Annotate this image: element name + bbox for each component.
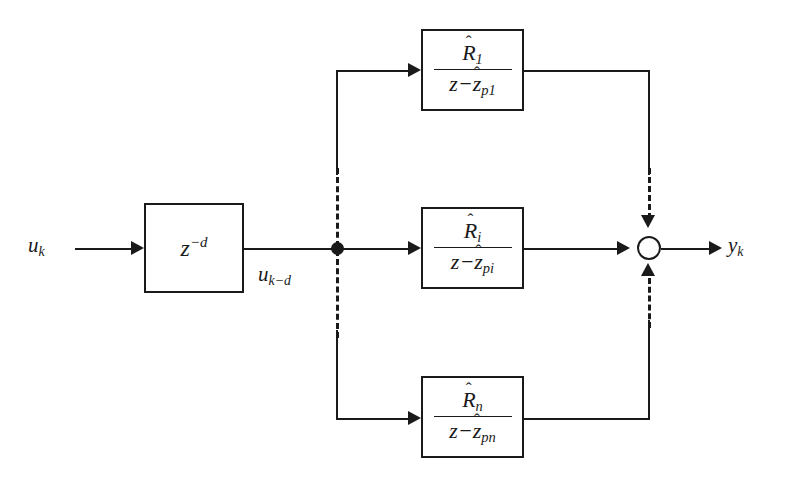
wire-branch-1-to-sum-bus bbox=[524, 70, 650, 72]
wire-delay-to-branchpoint bbox=[244, 248, 344, 250]
arrowhead-into-delay-block bbox=[131, 241, 144, 255]
arrowhead-into-branch-i-block bbox=[408, 241, 421, 255]
output-signal-label: yk bbox=[728, 235, 743, 259]
bus-left-upper-solid bbox=[336, 70, 338, 175]
wire-to-branch-n bbox=[336, 418, 414, 420]
arrowhead-output bbox=[709, 241, 722, 255]
arrowhead-into-sum-bottom bbox=[641, 263, 655, 276]
branch-i-denominator: z−ˆzpi bbox=[445, 248, 500, 276]
delay-block[interactable]: z−d bbox=[144, 203, 244, 293]
block-diagram-canvas: uk z−d uk−d ˆR1 z−ˆzp1 bbox=[0, 0, 786, 478]
arrowhead-into-sum-left bbox=[617, 241, 630, 255]
arrowhead-into-branch-n-block bbox=[408, 411, 421, 425]
arrowhead-into-sum-top bbox=[641, 215, 655, 228]
branch-1-denominator: z−ˆzp1 bbox=[443, 70, 502, 98]
input-signal-label: uk bbox=[28, 235, 45, 259]
wire-to-branch-1 bbox=[336, 70, 414, 72]
wire-branch-n-to-sum-bus bbox=[524, 418, 650, 420]
delayed-signal-label: uk−d bbox=[258, 264, 291, 288]
wire-branch-i-to-sum bbox=[524, 248, 623, 250]
branch-n-transfer-block[interactable]: ˆRn z−ˆzpn bbox=[421, 376, 524, 458]
branch-i-transfer-block[interactable]: ˆRi z−ˆzpi bbox=[421, 207, 524, 289]
bus-left-dashed bbox=[336, 168, 339, 338]
branch-i-numerator: ˆRi bbox=[458, 220, 488, 247]
bus-right-upper-solid bbox=[648, 70, 650, 175]
branch-n-denominator: z−ˆzpn bbox=[443, 417, 502, 445]
bus-right-upper-dashed bbox=[648, 168, 651, 219]
delay-block-expression: z−d bbox=[181, 235, 208, 260]
bus-left-lower-solid bbox=[336, 330, 338, 418]
arrowhead-into-branch-1-block bbox=[408, 63, 421, 77]
branch-n-transfer-function: ˆRn z−ˆzpn bbox=[434, 389, 512, 445]
summing-junction[interactable] bbox=[637, 236, 661, 260]
wire-input-to-delay bbox=[75, 248, 137, 250]
branch-i-transfer-function: ˆRi z−ˆzpi bbox=[434, 220, 512, 276]
branch-n-numerator: ˆRn bbox=[456, 389, 489, 416]
bus-right-lower-solid bbox=[648, 320, 650, 419]
wire-sum-to-output bbox=[661, 248, 715, 250]
branch-1-numerator: ˆR1 bbox=[456, 42, 489, 69]
wire-to-branch-i bbox=[336, 248, 414, 250]
branch-1-transfer-block[interactable]: ˆR1 z−ˆzp1 bbox=[421, 29, 524, 111]
branch-1-transfer-function: ˆR1 z−ˆzp1 bbox=[434, 42, 512, 98]
